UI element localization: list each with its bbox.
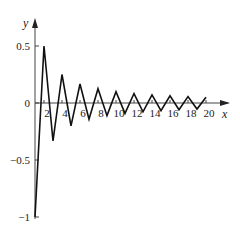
series-line bbox=[35, 46, 206, 217]
y-tick-label: −1 bbox=[18, 211, 30, 223]
x-tick-label: 2 bbox=[44, 107, 50, 119]
y-tick-label: −0.5 bbox=[10, 154, 30, 166]
chart: x y 0.50−0.5−1 2468101214161820 bbox=[0, 0, 240, 228]
x-axis-arrow-icon bbox=[220, 100, 230, 106]
x-axis-label: x bbox=[221, 107, 228, 121]
x-tick-label: 20 bbox=[204, 107, 216, 119]
y-tick-label: 0.5 bbox=[16, 40, 30, 52]
y-tick-label: 0 bbox=[25, 97, 31, 109]
x-tick-label: 18 bbox=[186, 107, 198, 119]
x-tick-label: 6 bbox=[80, 107, 86, 119]
y-axis-arrow-icon bbox=[32, 18, 38, 28]
y-axis-label: y bbox=[22, 16, 29, 30]
x-tick-label: 8 bbox=[98, 107, 104, 119]
x-tick-label: 16 bbox=[168, 107, 180, 119]
